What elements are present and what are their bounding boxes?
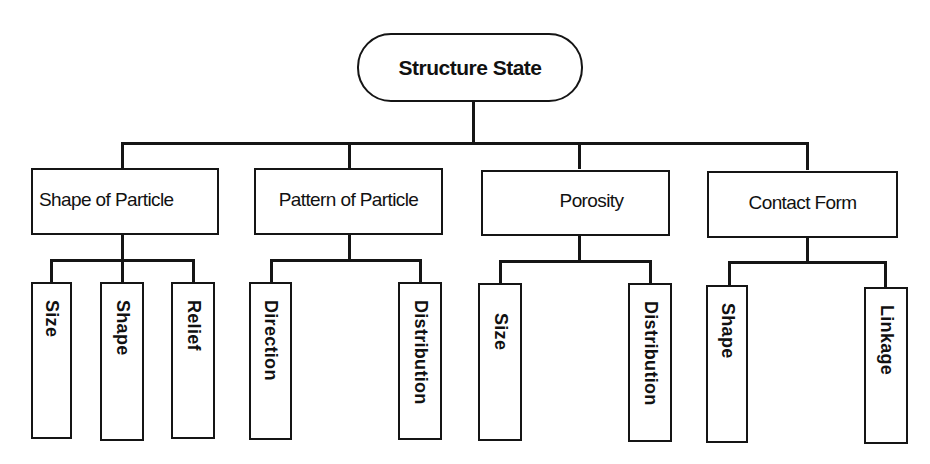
drop-distribution-1	[419, 259, 422, 283]
leaf-shape: Shape	[100, 282, 144, 441]
leaf-label: Distribution	[640, 301, 661, 406]
node-pattern-of-particle: Pattern of Particle	[254, 168, 443, 235]
connector-down-shape	[121, 233, 124, 283]
connector-shape-of-particle	[121, 142, 124, 169]
leaf-label: Relief	[183, 300, 204, 351]
leaf-distribution: Distribution	[628, 283, 672, 442]
drop-direction	[270, 259, 273, 283]
node-label: Porosity	[560, 190, 624, 212]
connector-porosity	[578, 142, 581, 169]
root-node-structure-state: Structure State	[357, 33, 583, 102]
drop-size-1	[50, 259, 53, 283]
leaf-size: Size	[478, 283, 522, 441]
drop-size-2	[499, 260, 502, 284]
connector-down-porosity	[578, 234, 581, 261]
leaf-direction: Direction	[249, 282, 292, 440]
leaf-label: Size	[490, 313, 511, 350]
drop-shape-2	[728, 261, 731, 286]
bus-shape-children	[50, 259, 194, 262]
leaf-distribution: Distribution	[398, 282, 442, 440]
leaf-label: Shape	[112, 300, 133, 356]
root-label: Structure State	[398, 56, 541, 80]
leaf-label: Distribution	[410, 300, 431, 405]
leaf-linkage: Linkage	[864, 287, 908, 444]
leaf-shape: Shape	[706, 285, 748, 443]
level1-bus	[121, 142, 809, 145]
root-connector	[472, 100, 475, 144]
leaf-label: Direction	[260, 300, 281, 381]
leaf-label: Linkage	[876, 305, 897, 375]
leaf-label: Size	[41, 300, 62, 337]
leaf-relief: Relief	[171, 282, 215, 439]
node-contact-form: Contact Form	[707, 171, 898, 238]
node-label: Shape of Particle	[39, 189, 174, 211]
bus-pattern-children	[270, 259, 421, 262]
node-porosity: Porosity	[481, 170, 670, 236]
drop-relief	[192, 259, 195, 283]
connector-contact-form	[806, 142, 809, 170]
drop-distribution-2	[649, 260, 652, 284]
leaf-size: Size	[31, 282, 72, 439]
leaf-label: Shape	[717, 303, 738, 359]
node-label: Contact Form	[749, 192, 857, 214]
bus-contact-children	[728, 261, 885, 264]
connector-pattern-of-particle	[348, 142, 351, 169]
connector-down-pattern	[348, 233, 351, 260]
drop-linkage	[884, 261, 887, 288]
connector-down-contact	[806, 236, 809, 263]
node-label: Pattern of Particle	[279, 189, 419, 211]
node-shape-of-particle: Shape of Particle	[31, 168, 219, 235]
bus-porosity-children	[499, 260, 651, 263]
